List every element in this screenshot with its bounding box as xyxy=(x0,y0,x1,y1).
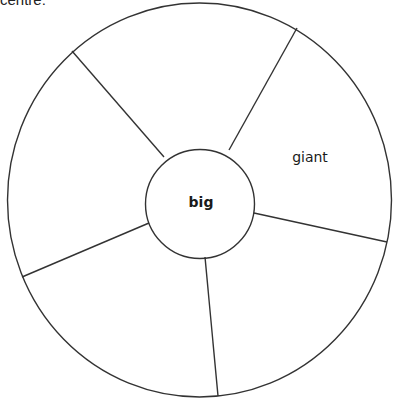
spoke-bottom xyxy=(205,257,218,396)
word-wheel-diagram: big giant xyxy=(0,0,394,403)
center-label: big xyxy=(189,194,214,210)
spoke-right xyxy=(254,213,387,242)
spoke-left xyxy=(22,223,149,277)
spoke-top-left xyxy=(72,51,164,157)
spoke-top-right xyxy=(229,28,297,150)
segment-label-upper-right: giant xyxy=(292,149,328,165)
